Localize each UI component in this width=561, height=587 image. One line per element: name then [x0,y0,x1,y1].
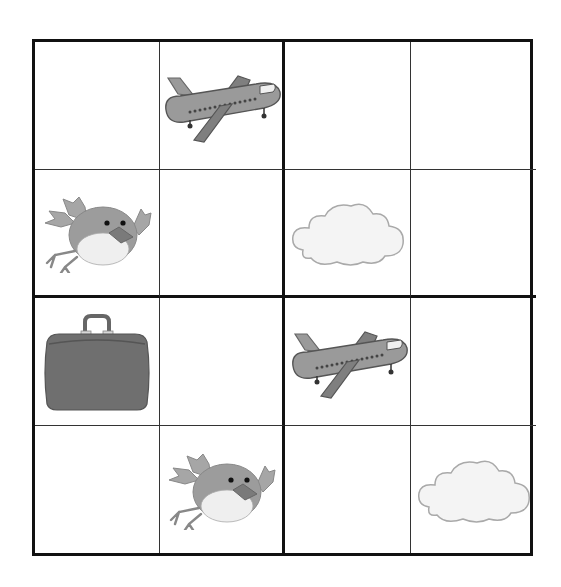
cell-r3-c3[interactable]: cloud [411,426,536,553]
sudoku-board: airplane bird [32,39,533,556]
cloud-icon [289,198,407,268]
cell-r0-c3[interactable] [411,42,536,170]
cell-r3-c0[interactable] [35,426,160,553]
cell-r2-c0[interactable]: suitcase [35,298,160,426]
cell-r1-c2[interactable]: cloud [285,170,411,298]
airplane-icon [287,322,409,402]
cell-r3-c1[interactable]: bird [160,426,285,553]
cell-r1-c3[interactable] [411,170,536,298]
cloud-icon [415,455,533,525]
cell-r1-c1[interactable] [160,170,285,298]
cell-r2-c2[interactable]: airplane [285,298,411,426]
cell-r0-c1[interactable]: airplane [160,42,285,170]
bird-icon [165,450,277,530]
cell-r1-c0[interactable]: bird [35,170,160,298]
bird-icon [41,193,153,273]
cell-r3-c2[interactable] [285,426,411,553]
suitcase-icon [39,312,155,412]
cell-r0-c0[interactable] [35,42,160,170]
cell-r2-c3[interactable] [411,298,536,426]
cell-r2-c1[interactable] [160,298,285,426]
cell-r0-c2[interactable] [285,42,411,170]
airplane-icon [160,66,282,146]
